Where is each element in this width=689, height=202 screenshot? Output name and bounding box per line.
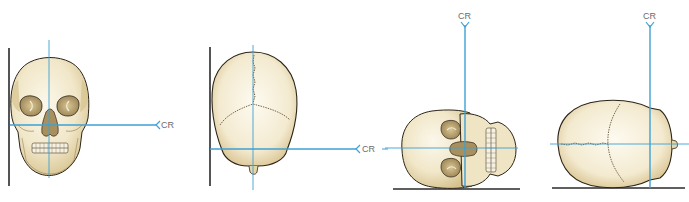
- skull-positioning-diagram: CR CR: [0, 0, 689, 202]
- panel-frontal-skull: CR: [9, 40, 174, 186]
- central-ray-arrowhead-icon: [356, 145, 360, 153]
- panel-rotated-vertex-skull: CR: [550, 11, 689, 188]
- central-ray-arrowhead-icon: [461, 22, 469, 27]
- right-orbit: [57, 96, 79, 116]
- teeth: [32, 143, 68, 153]
- central-ray-arrowhead-icon: [646, 22, 654, 27]
- cr-label: CR: [458, 11, 471, 21]
- nasal-cavity: [450, 142, 477, 157]
- cr-label: CR: [362, 144, 375, 154]
- skull-rotated-face-illustration: [402, 110, 516, 188]
- upper-orbit: [441, 120, 461, 139]
- skull-frontal-illustration: [11, 58, 89, 176]
- panel-rotated-face-skull: CR: [385, 11, 520, 189]
- cr-label: CR: [161, 120, 174, 130]
- lower-orbit: [441, 158, 461, 177]
- cr-label: CR: [643, 11, 656, 21]
- teeth: [486, 128, 496, 172]
- left-orbit: [20, 96, 42, 116]
- central-ray-arrowhead-icon: [156, 121, 160, 129]
- skull-vertex-illustration: [212, 52, 297, 174]
- panel-vertex-skull: CR: [210, 45, 388, 190]
